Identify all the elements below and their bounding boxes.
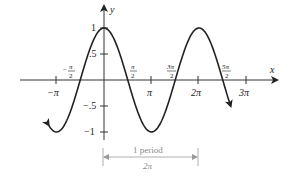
x-tick-half-pi: π 2 bbox=[130, 63, 137, 80]
y-tick-neg-half: −.5 bbox=[83, 100, 96, 111]
y-axis-label: y bbox=[109, 4, 115, 15]
x-tick-2pi: 2π bbox=[191, 87, 202, 98]
period-annotation: 1 period 2π bbox=[103, 145, 198, 171]
x-tick-neg-pi: −π bbox=[47, 87, 60, 98]
period-value: 2π bbox=[143, 161, 153, 171]
x-tick-five-half-pi: 5π 2 bbox=[222, 63, 231, 80]
x-tick-three-half-pi: 3π 2 bbox=[166, 63, 176, 80]
x-axis-label: x bbox=[269, 64, 275, 75]
svg-text:π: π bbox=[131, 63, 135, 71]
svg-text:5π: 5π bbox=[222, 63, 230, 71]
period-label: 1 period bbox=[133, 145, 163, 155]
svg-text:2: 2 bbox=[131, 72, 135, 80]
y-tick-neg-1: −1 bbox=[84, 126, 95, 137]
svg-text:π: π bbox=[69, 63, 73, 71]
cosine-graph: x y 1 .5 −.5 −1 −π π 2π 3π − π 2 π 2 3π … bbox=[0, 0, 287, 180]
x-tick-pi: π bbox=[147, 87, 153, 98]
x-tick-neg-half-pi: − π 2 bbox=[63, 63, 75, 80]
svg-text:3π: 3π bbox=[166, 63, 175, 71]
x-tick-3pi: 3π bbox=[238, 87, 250, 98]
svg-text:−: − bbox=[63, 66, 67, 74]
y-tick-1: 1 bbox=[91, 22, 96, 33]
svg-text:2: 2 bbox=[225, 72, 229, 80]
svg-text:2: 2 bbox=[170, 72, 174, 80]
svg-text:2: 2 bbox=[69, 72, 73, 80]
